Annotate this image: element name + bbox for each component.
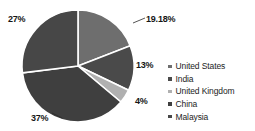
leader-line-united-states [133, 18, 145, 23]
legend-swatch-icon [168, 77, 172, 81]
pie-slices-group [22, 10, 134, 122]
chart-legend: United StatesIndiaUnited KingdomChinaMal… [168, 60, 254, 123]
legend-item-label: China [176, 99, 198, 109]
legend-item-india[interactable]: India [168, 73, 254, 86]
slice-label-china: 37% [31, 113, 48, 123]
legend-swatch-icon [168, 90, 172, 94]
legend-swatch-icon [168, 65, 172, 69]
legend-swatch-icon [168, 102, 172, 106]
legend-item-label: India [176, 74, 194, 84]
slice-label-india: 13% [136, 60, 153, 70]
legend-item-china[interactable]: China [168, 98, 254, 111]
pie-chart-figure: 19.18% 13% 4% 37% 27% United StatesIndia… [0, 0, 255, 131]
legend-item-united-states[interactable]: United States [168, 60, 254, 73]
slice-label-united-kingdom: 4% [135, 96, 148, 106]
legend-swatch-icon [168, 115, 172, 119]
legend-item-united-kingdom[interactable]: United Kingdom [168, 85, 254, 98]
pie-slice-malaysia[interactable] [22, 10, 78, 73]
slice-label-malaysia: 27% [8, 14, 25, 24]
legend-item-label: United States [176, 61, 226, 71]
slice-label-united-states: 19.18% [146, 14, 175, 24]
legend-item-malaysia[interactable]: Malaysia [168, 110, 254, 123]
legend-item-label: United Kingdom [176, 86, 235, 96]
legend-item-label: Malaysia [176, 112, 209, 122]
